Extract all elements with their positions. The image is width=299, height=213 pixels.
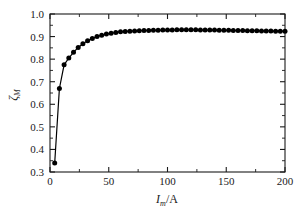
data-point-marker: [66, 56, 71, 61]
data-point-marker: [132, 28, 137, 33]
data-point-marker: [268, 28, 273, 33]
data-point-marker: [165, 28, 170, 33]
y-tick-label: 0.4: [30, 143, 44, 155]
data-point-marker: [123, 29, 128, 34]
data-point-marker: [278, 29, 283, 34]
data-point-marker: [245, 28, 250, 33]
data-series-layer: [52, 27, 287, 165]
svg-text:Im/A: Im/A: [155, 192, 178, 208]
data-point-marker: [146, 28, 151, 33]
data-point-marker: [231, 28, 236, 33]
data-point-marker: [109, 31, 114, 36]
data-point-marker: [156, 28, 161, 33]
data-point-marker: [76, 45, 81, 50]
data-point-marker: [193, 27, 198, 32]
y-tick-label: 0.3: [30, 166, 44, 178]
data-point-marker: [71, 50, 76, 55]
data-point-marker: [264, 28, 269, 33]
data-point-marker: [99, 33, 104, 38]
data-point-marker: [62, 62, 67, 67]
y-tick-label: 0.8: [30, 53, 44, 65]
data-point-marker: [160, 28, 165, 33]
data-point-marker: [179, 27, 184, 32]
x-tick-label: 200: [277, 175, 294, 187]
y-tick-label: 1.0: [30, 8, 44, 20]
svg-text:ζM: ζM: [6, 88, 22, 101]
data-point-marker: [250, 28, 255, 33]
data-point-marker: [189, 27, 194, 32]
data-point-marker: [113, 30, 118, 35]
data-point-marker: [283, 29, 288, 34]
data-point-marker: [57, 86, 62, 91]
data-point-marker: [212, 28, 217, 33]
x-axis-tick-labels: 050100150200: [47, 175, 294, 187]
x-tick-label: 100: [159, 175, 176, 187]
y-axis-title: ζM: [6, 88, 22, 101]
y-tick-label: 0.9: [30, 31, 44, 43]
data-point-marker: [142, 28, 147, 33]
x-tick-label: 0: [47, 175, 53, 187]
data-point-marker: [259, 28, 264, 33]
data-point-marker: [151, 28, 156, 33]
y-tick-label: 0.7: [30, 76, 44, 88]
data-point-marker: [80, 41, 85, 46]
x-axis-ticks: [50, 14, 285, 172]
data-point-marker: [217, 28, 222, 33]
chart-canvas: 050100150200 0.30.40.50.60.70.80.91.0 Im…: [0, 0, 299, 213]
data-point-marker: [203, 28, 208, 33]
data-point-marker: [127, 29, 132, 34]
data-point-marker: [90, 36, 95, 41]
x-tick-label: 50: [103, 175, 115, 187]
data-point-marker: [198, 28, 203, 33]
data-point-marker: [170, 28, 175, 33]
y-axis-ticks: [50, 14, 285, 172]
data-point-marker: [118, 29, 123, 34]
x-tick-label: 150: [218, 175, 235, 187]
data-point-marker: [85, 38, 90, 43]
data-point-marker: [226, 28, 231, 33]
y-tick-label: 0.5: [30, 121, 44, 133]
data-point-marker: [221, 28, 226, 33]
y-axis-tick-labels: 0.30.40.50.60.70.80.91.0: [30, 8, 44, 178]
chart-figure: 050100150200 0.30.40.50.60.70.80.91.0 Im…: [0, 0, 299, 213]
data-line: [55, 30, 285, 163]
data-point-marker: [254, 28, 259, 33]
data-point-marker: [273, 29, 278, 34]
data-point-marker: [95, 34, 100, 39]
data-point-marker: [236, 28, 241, 33]
data-point-marker: [174, 27, 179, 32]
plot-frame: [50, 14, 285, 172]
x-axis-title: Im/A: [155, 192, 178, 208]
data-point-marker: [184, 27, 189, 32]
data-point-marker: [52, 160, 57, 165]
data-point-marker: [104, 32, 109, 37]
data-point-marker: [240, 28, 245, 33]
data-point-marker: [207, 28, 212, 33]
data-point-marker: [137, 28, 142, 33]
y-tick-label: 0.6: [30, 98, 44, 110]
